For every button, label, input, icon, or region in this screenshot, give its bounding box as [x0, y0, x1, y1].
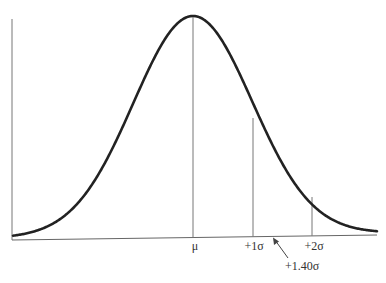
normal-curve	[13, 16, 377, 236]
mean-label: μ	[192, 239, 198, 253]
normal-distribution-diagram: μ +1σ +2σ +1.40σ	[0, 0, 386, 283]
annotation-label: +1.40σ	[285, 259, 320, 273]
plus-two-sigma-label: +2σ	[304, 239, 324, 253]
plus-one-sigma-label: +1σ	[244, 239, 264, 253]
